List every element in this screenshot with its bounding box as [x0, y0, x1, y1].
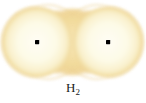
molecule-label-element: H [66, 80, 76, 95]
molecule-label: H2 [0, 80, 146, 100]
nucleus-left [35, 40, 39, 44]
molecule-label-subscript: 2 [76, 87, 81, 97]
h2-orbital-figure: H2 [0, 0, 146, 103]
nucleus-right [106, 40, 110, 44]
